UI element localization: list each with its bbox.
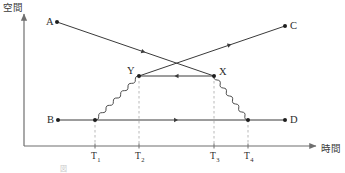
worldlines — [57, 22, 285, 122]
tick-label-T3: T3 — [210, 151, 220, 163]
tick-label-T4: T4 — [244, 151, 254, 163]
line-a-to-x — [57, 22, 214, 76]
photon-x-to-t4 — [214, 76, 248, 120]
tick-subscript-1: 1 — [97, 156, 100, 163]
point-label-b: B — [47, 114, 54, 125]
y-axis-label: 空間 — [3, 2, 23, 13]
point-dot-d — [283, 118, 287, 122]
point-label-y: Y — [127, 65, 135, 76]
wavy-photon-lines — [95, 76, 248, 120]
point-label-c: C — [290, 20, 297, 31]
point-markers: ACYXBD — [46, 16, 298, 125]
figure-caption: 図 — [60, 165, 67, 173]
point-dot-x — [212, 74, 216, 78]
tick-subscript-2: 2 — [141, 156, 144, 163]
tick-subscript-4: 4 — [250, 156, 254, 163]
point-label-a: A — [46, 16, 54, 27]
x-axis-label: 時間 — [321, 143, 341, 154]
photon-t1-to-y — [95, 76, 139, 120]
tick-label-T1: T1 — [91, 151, 101, 163]
tick-subscript-3: 3 — [216, 156, 219, 163]
diagram-canvas: 空間 時間 T1T2T3T4 ACYXBD 図 — [0, 0, 345, 173]
line-y-to-c — [139, 26, 285, 76]
point-label-x: X — [219, 66, 227, 77]
point-dot-b — [56, 118, 60, 122]
point-dot-t1-on-b — [93, 118, 97, 122]
point-dot-t4-on-b — [246, 118, 250, 122]
line-x-to-y-arrowhead — [175, 74, 179, 78]
spacetime-diagram-figure: 空間 時間 T1T2T3T4 ACYXBD 図 — [0, 0, 345, 173]
point-label-d: D — [290, 114, 298, 125]
dashed-guides — [95, 76, 248, 146]
line-b-to-d-arrowhead — [174, 118, 178, 122]
point-dot-c — [283, 24, 287, 28]
point-dot-a — [55, 20, 59, 24]
tick-label-T2: T2 — [135, 151, 145, 163]
point-dot-y — [137, 74, 141, 78]
